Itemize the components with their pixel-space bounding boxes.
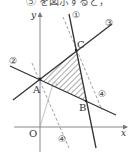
line-3-label: ③ (105, 18, 113, 28)
point-label-b: B (79, 102, 86, 113)
line-4-label-lower: ④ (58, 134, 66, 144)
x-axis-label: x (121, 128, 126, 138)
line-2-label: ② (9, 56, 17, 66)
point-a (39, 78, 42, 81)
coordinate-diagram: A B C y x O ① ② ③ ④ ④ (0, 0, 133, 154)
point-label-a: A (32, 84, 41, 95)
line-1-label: ① (72, 10, 80, 20)
line-4-label-upper: ④ (98, 89, 106, 99)
shaded-region-abc (40, 50, 86, 101)
point-label-c: C (77, 39, 85, 50)
helper-line (40, 84, 53, 127)
origin-label: O (29, 128, 37, 139)
y-axis-label: y (30, 10, 37, 20)
